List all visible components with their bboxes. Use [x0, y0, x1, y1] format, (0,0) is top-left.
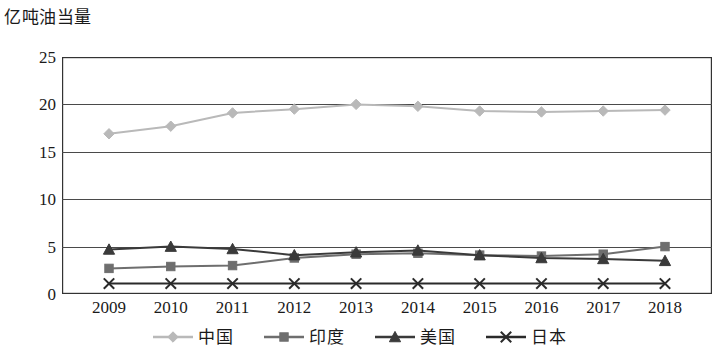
x-tick-label: 2009 — [74, 298, 144, 318]
data-point-marker — [166, 121, 176, 131]
x-tick-label: 2017 — [568, 298, 638, 318]
data-point-marker — [660, 105, 670, 115]
data-point-marker — [351, 99, 361, 109]
x-tick-label: 2013 — [321, 298, 391, 318]
legend-item-1[interactable]: 印度 — [263, 327, 344, 347]
data-point-marker — [168, 332, 178, 342]
y-tick-label: 20 — [16, 96, 56, 113]
x-tick-label: 2014 — [383, 298, 453, 318]
legend-item-3[interactable]: 日本 — [485, 327, 566, 347]
data-point-marker — [228, 261, 236, 269]
legend-label: 美国 — [420, 327, 455, 347]
x-tick-label: 2016 — [506, 298, 576, 318]
plot-svg — [62, 57, 712, 294]
y-tick-label: 5 — [16, 238, 56, 255]
data-point-marker — [661, 242, 669, 250]
plot-area — [62, 57, 712, 294]
legend-label: 中国 — [198, 327, 233, 347]
y-axis-tick-labels: 0510152025 — [10, 57, 56, 294]
x-tick-label: 2011 — [198, 298, 268, 318]
data-point-marker — [104, 129, 114, 139]
data-point-marker — [227, 108, 237, 118]
x-tick-label: 2010 — [136, 298, 206, 318]
legend-item-0[interactable]: 中国 — [152, 327, 233, 347]
chart-legend: 中国印度美国日本 — [0, 323, 718, 351]
x-tick-label: 2015 — [445, 298, 515, 318]
y-tick-label: 10 — [16, 191, 56, 208]
data-point-marker — [598, 106, 608, 116]
triangle-marker — [374, 329, 416, 345]
series-line — [109, 247, 665, 269]
diamond-marker — [152, 329, 194, 345]
data-point-marker — [280, 333, 288, 341]
series-diamond — [104, 99, 670, 139]
x-tick-label: 2012 — [259, 298, 329, 318]
data-point-marker — [536, 107, 546, 117]
x-axis-tick-labels: 2009201020112012201320142015201620172018 — [62, 298, 712, 322]
data-point-marker — [413, 101, 423, 111]
data-point-marker — [289, 104, 299, 114]
x-tick-label: 2018 — [630, 298, 700, 318]
series-line — [109, 104, 665, 133]
y-tick-label: 15 — [16, 143, 56, 160]
series-cross — [104, 278, 670, 288]
legend-label: 印度 — [309, 327, 344, 347]
y-tick-label: 0 — [16, 286, 56, 303]
data-point-marker — [167, 262, 175, 270]
y-axis-unit-label: 亿吨油当量 — [4, 6, 92, 28]
legend-item-2[interactable]: 美国 — [374, 327, 455, 347]
square-marker — [263, 329, 305, 345]
data-point-marker — [474, 106, 484, 116]
cross-marker — [485, 329, 527, 345]
plot-border — [63, 58, 712, 294]
line-chart: 亿吨油当量 0510152025 20092010201120122013201… — [0, 0, 718, 351]
data-point-marker — [105, 264, 113, 272]
y-tick-label: 25 — [16, 49, 56, 66]
legend-label: 日本 — [531, 327, 566, 347]
